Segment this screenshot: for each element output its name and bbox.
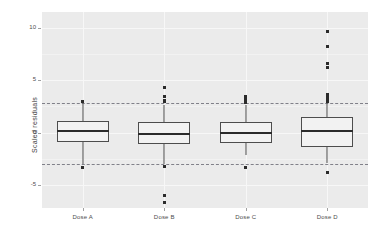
outlier-point xyxy=(163,100,166,103)
outlier-point xyxy=(326,66,329,69)
chart-root: Scaled residuals 1050-5 Dose ADose BDose… xyxy=(0,0,386,249)
y-tick-mark xyxy=(38,185,41,186)
y-tick-mark xyxy=(38,28,41,29)
outlier-point xyxy=(244,166,247,169)
x-tick-mark xyxy=(246,208,247,211)
y-axis-label-wrap: Scaled residuals xyxy=(0,0,20,249)
x-tick-label-dose-d: Dose D xyxy=(317,214,338,220)
plot-panel xyxy=(42,12,368,208)
median-line xyxy=(57,130,109,132)
y-tick-mark xyxy=(38,133,41,134)
outlier-point xyxy=(326,100,329,103)
y-tick-label: -5 xyxy=(18,181,36,187)
y-tick-label: 0 xyxy=(18,129,36,135)
outlier-point xyxy=(81,100,84,103)
y-tick-label: 5 xyxy=(18,76,36,82)
y-tick-mark xyxy=(38,80,41,81)
whisker-lower xyxy=(164,144,165,164)
whisker-upper xyxy=(82,103,83,121)
whisker-upper xyxy=(327,103,328,117)
y-tick-label: 10 xyxy=(18,24,36,30)
y-axis-label: Scaled residuals xyxy=(31,96,38,152)
whisker-lower xyxy=(327,147,328,163)
outlier-point xyxy=(163,201,166,204)
x-tick-mark xyxy=(327,208,328,211)
outlier-point xyxy=(163,86,166,89)
whisker-upper xyxy=(164,105,165,122)
outlier-point xyxy=(81,166,84,169)
whisker-lower xyxy=(82,142,83,164)
x-tick-label-dose-a: Dose A xyxy=(73,214,94,220)
x-tick-label-dose-b: Dose B xyxy=(154,214,175,220)
x-tick-mark xyxy=(83,208,84,211)
outlier-point xyxy=(163,194,166,197)
median-line xyxy=(138,133,190,135)
whisker-upper xyxy=(245,105,246,122)
boxplot-dose-b xyxy=(138,12,190,208)
outlier-point xyxy=(326,62,329,65)
outlier-point xyxy=(326,30,329,33)
outlier-point xyxy=(163,165,166,168)
median-line xyxy=(220,132,272,134)
outlier-point xyxy=(326,45,329,48)
x-tick-label-dose-c: Dose C xyxy=(235,214,256,220)
whisker-lower xyxy=(245,143,246,155)
outlier-point xyxy=(244,101,247,104)
boxplot-dose-d xyxy=(301,12,353,208)
boxplot-dose-c xyxy=(220,12,272,208)
boxplot-dose-a xyxy=(57,12,109,208)
outlier-point xyxy=(326,171,329,174)
median-line xyxy=(301,130,353,132)
x-tick-mark xyxy=(164,208,165,211)
